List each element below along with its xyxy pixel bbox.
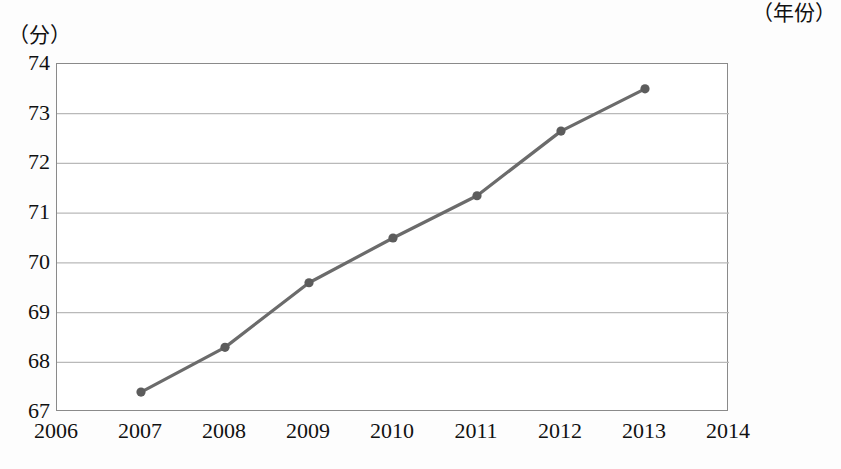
y-axis-tick-label: 71 bbox=[4, 201, 50, 223]
x-axis-tick-label: 2007 bbox=[100, 418, 180, 444]
x-axis-unit-label: （年份） bbox=[752, 0, 836, 26]
y-axis-tick-label: 69 bbox=[4, 301, 50, 323]
data-point-markers bbox=[136, 84, 649, 396]
data-point-marker bbox=[472, 191, 481, 200]
x-axis-tick-label: 2011 bbox=[436, 418, 516, 444]
y-axis-tick-label: 68 bbox=[4, 350, 50, 372]
y-axis-tick-label: 74 bbox=[4, 52, 50, 74]
x-axis-tick-labels: 200620072008200920102011201220132014 bbox=[0, 418, 841, 454]
x-axis-tick-label: 2008 bbox=[184, 418, 264, 444]
x-axis-tick-label: 2014 bbox=[688, 418, 768, 444]
plot-svg bbox=[57, 64, 729, 412]
plot-area bbox=[56, 63, 728, 411]
line-chart: （分） 6768697071727374 2006200720082009201… bbox=[0, 0, 841, 469]
data-point-marker bbox=[640, 84, 649, 93]
x-axis-tick-label: 2009 bbox=[268, 418, 348, 444]
y-axis-tick-label: 73 bbox=[4, 102, 50, 124]
data-point-marker bbox=[136, 388, 145, 397]
x-axis-tick-label: 2013 bbox=[604, 418, 684, 444]
data-point-marker bbox=[220, 343, 229, 352]
x-axis-tick-label: 2006 bbox=[16, 418, 96, 444]
data-point-marker bbox=[304, 278, 313, 287]
x-axis-tick-label: 2010 bbox=[352, 418, 432, 444]
y-axis-tick-label: 70 bbox=[4, 251, 50, 273]
y-axis-tick-label: 72 bbox=[4, 151, 50, 173]
y-axis-tick-labels: 6768697071727374 bbox=[0, 0, 50, 469]
x-axis-tick-label: 2012 bbox=[520, 418, 600, 444]
data-point-marker bbox=[388, 233, 397, 242]
data-point-marker bbox=[556, 127, 565, 136]
